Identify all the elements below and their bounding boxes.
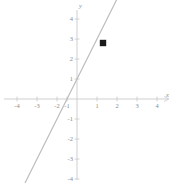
y-tick-label--3: -3 [61, 156, 73, 163]
y-axis-label: y [79, 3, 82, 10]
y-tick-label-3: 3 [61, 36, 73, 43]
x-tick-label-4: 4 [149, 103, 165, 110]
x-axis-label: x [166, 92, 169, 99]
x-tick-label-3: 3 [129, 103, 145, 110]
data-point-marker [100, 40, 106, 46]
x-tick-label-2: 2 [109, 103, 125, 110]
y-tick-label--4: -4 [61, 176, 73, 183]
x-tick-label-1: 1 [89, 103, 105, 110]
x-tick-label--1: -1 [59, 103, 75, 110]
data-line-series [25, 0, 141, 183]
y-tick-label-1: 1 [61, 76, 73, 83]
x-tick-label--3: -3 [29, 103, 45, 110]
plot-area [0, 0, 174, 185]
y-tick-label--2: -2 [61, 136, 73, 143]
chart-container: -4 -3 -2 -1 1 2 3 4 4 3 2 1 -1 -2 -3 -4 … [0, 0, 174, 185]
y-tick-label--1: -1 [61, 116, 73, 123]
y-tick-label-2: 2 [61, 56, 73, 63]
x-tick-label--4: -4 [9, 103, 25, 110]
y-tick-label-4: 4 [61, 16, 73, 23]
